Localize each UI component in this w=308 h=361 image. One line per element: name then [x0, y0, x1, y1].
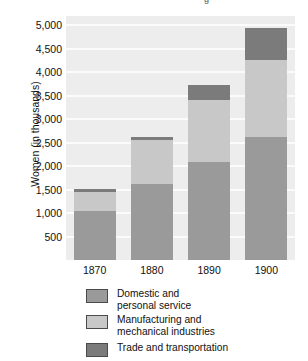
- y-axis-tick-label: 3,500: [16, 90, 62, 101]
- legend-item: Trade and transportation: [86, 342, 228, 357]
- bar-segment: [188, 85, 230, 99]
- bar-segment: [74, 192, 116, 211]
- y-axis-tick-label: 5,000: [16, 20, 62, 31]
- y-axis-tick-label: 2,000: [16, 161, 62, 172]
- y-axis-tick-label: 3,000: [16, 114, 62, 125]
- bar-segment: [188, 162, 230, 260]
- y-axis-tick-label: 4,500: [16, 43, 62, 54]
- legend-label: Trade and transportation: [117, 342, 228, 354]
- bar-segment: [74, 211, 116, 260]
- stacked-bar-chart-figure: g Women (in thousands) 5,0004,5004,0003,…: [0, 0, 308, 361]
- clipped-title-fragment: g: [204, 0, 211, 4]
- legend-swatch: [86, 289, 108, 303]
- bar-1890: [188, 85, 230, 260]
- bar-1880: [131, 137, 173, 260]
- bar-segment: [245, 60, 287, 137]
- x-axis-tick-labels: 1870188018901900: [66, 264, 295, 278]
- bar-1870: [74, 189, 116, 260]
- x-axis-tick-label: 1870: [66, 264, 123, 276]
- legend-item: Domestic and personal service: [86, 288, 191, 311]
- y-axis-tick-label: 1,500: [16, 184, 62, 195]
- y-axis-tick-label: 1,000: [16, 208, 62, 219]
- plot-area: [66, 16, 295, 260]
- y-axis-tick-label: 2,500: [16, 137, 62, 148]
- bar-segment: [131, 137, 173, 140]
- x-axis-tick-label: 1890: [181, 264, 238, 276]
- x-axis-tick-label: 1900: [238, 264, 295, 276]
- legend-label: Manufacturing and mechanical industries: [117, 314, 215, 337]
- y-axis-tick-labels: 5,0004,5004,0003,5003,0002,5002,0001,500…: [16, 0, 62, 361]
- bar-segment: [74, 189, 116, 192]
- legend-swatch: [86, 315, 108, 329]
- legend-item: Manufacturing and mechanical industries: [86, 314, 215, 337]
- bar-segment: [245, 28, 287, 60]
- bar-segment: [131, 140, 173, 184]
- bar-group: [66, 16, 295, 260]
- bar-1900: [245, 28, 287, 260]
- x-axis-tick-label: 1880: [123, 264, 180, 276]
- bar-segment: [245, 137, 287, 260]
- bar-segment: [131, 184, 173, 260]
- y-axis-tick-label: 4,000: [16, 67, 62, 78]
- legend-swatch: [86, 343, 108, 357]
- legend-label: Domestic and personal service: [117, 288, 191, 311]
- y-axis-tick-label: 500: [16, 231, 62, 242]
- bar-segment: [188, 100, 230, 162]
